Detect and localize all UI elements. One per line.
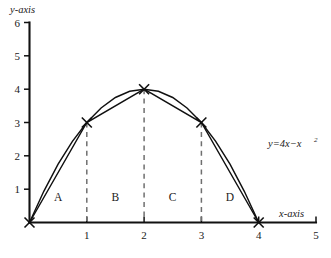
x-tick-label-3: 3 [199, 229, 205, 241]
x-tick-label-4: 4 [256, 229, 262, 241]
y-tick-label-4: 4 [15, 83, 21, 95]
equation-main: y=4x−x [267, 138, 302, 149]
region-label-c: C [169, 191, 177, 203]
chart-figure: y-axis 6 5 4 3 2 1 1 2 3 4 5 x-axis [0, 0, 331, 258]
y-tick-label-2: 2 [15, 150, 21, 162]
y-axis-title: y-axis [9, 4, 35, 15]
region-label-d: D [226, 191, 234, 203]
y-tick-label-6: 6 [15, 17, 21, 29]
x-axis-title: x-axis [278, 208, 304, 219]
y-tick-label-1: 1 [15, 183, 21, 195]
equation-annotation: y=4x−x 2 [267, 136, 318, 149]
x-tick-label-1: 1 [84, 229, 90, 241]
region-label-a: A [54, 191, 63, 203]
y-tick-label-3: 3 [15, 117, 21, 129]
region-label-b: B [112, 191, 120, 203]
parabola-trapezoid-chart: y-axis 6 5 4 3 2 1 1 2 3 4 5 x-axis [0, 0, 331, 258]
x-tick-label-2: 2 [141, 229, 147, 241]
equation-exponent: 2 [314, 136, 318, 144]
x-tick-label-5: 5 [313, 229, 319, 241]
y-tick-label-5: 5 [15, 50, 21, 62]
